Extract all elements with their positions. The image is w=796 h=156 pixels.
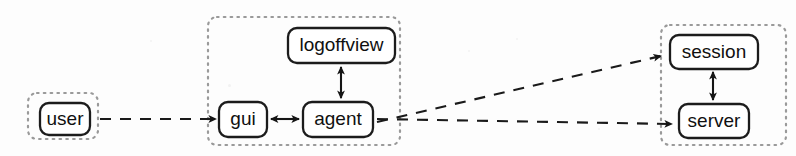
- edges: [100, 56, 713, 124]
- diagram-canvas: user logoffview gui agent session server: [0, 0, 796, 156]
- node-session[interactable]: session: [670, 35, 758, 69]
- group-boxes: [28, 17, 786, 145]
- node-label-logoffview: logoffview: [299, 34, 383, 55]
- node-server[interactable]: server: [679, 104, 749, 138]
- node-user[interactable]: user: [40, 103, 90, 135]
- node-label-session: session: [682, 41, 746, 62]
- node-agent[interactable]: agent: [303, 102, 373, 137]
- node-label-agent: agent: [314, 108, 362, 129]
- node-label-server: server: [688, 110, 741, 131]
- component-diagram: user logoffview gui agent session server: [0, 0, 796, 156]
- node-logoffview[interactable]: logoffview: [288, 28, 395, 63]
- node-label-gui: gui: [230, 108, 255, 129]
- node-gui[interactable]: gui: [219, 102, 267, 137]
- edge-agent-to-session: [377, 56, 661, 122]
- edge-agent-to-server: [377, 119, 672, 124]
- node-label-user: user: [47, 108, 85, 129]
